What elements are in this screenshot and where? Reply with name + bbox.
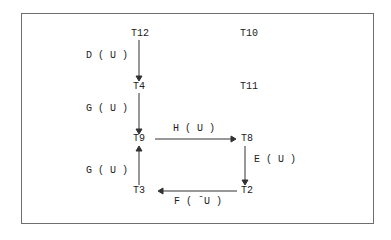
arrowhead-up-icon [136, 146, 142, 151]
node-t12: T12 [131, 29, 149, 39]
node-t2: T2 [241, 186, 253, 196]
edge-label-e: E ( U ) [254, 155, 296, 165]
node-t9: T9 [133, 134, 145, 144]
node-t11: T11 [240, 82, 258, 92]
edge-label-g-top: G ( U ) [86, 104, 128, 114]
edge-label-f: F ( ˉU ) [174, 197, 222, 207]
arrowhead-right-icon [231, 136, 236, 142]
arrowhead-left-icon [158, 188, 163, 194]
edge-label-h: H ( U ) [173, 124, 215, 134]
node-t8: T8 [241, 134, 253, 144]
node-t3: T3 [133, 186, 145, 196]
node-t10: T10 [240, 29, 258, 39]
node-t4: T4 [133, 82, 145, 92]
edge-label-d: D ( U ) [86, 51, 128, 61]
edge-label-g-bottom: G ( U ) [86, 166, 128, 176]
